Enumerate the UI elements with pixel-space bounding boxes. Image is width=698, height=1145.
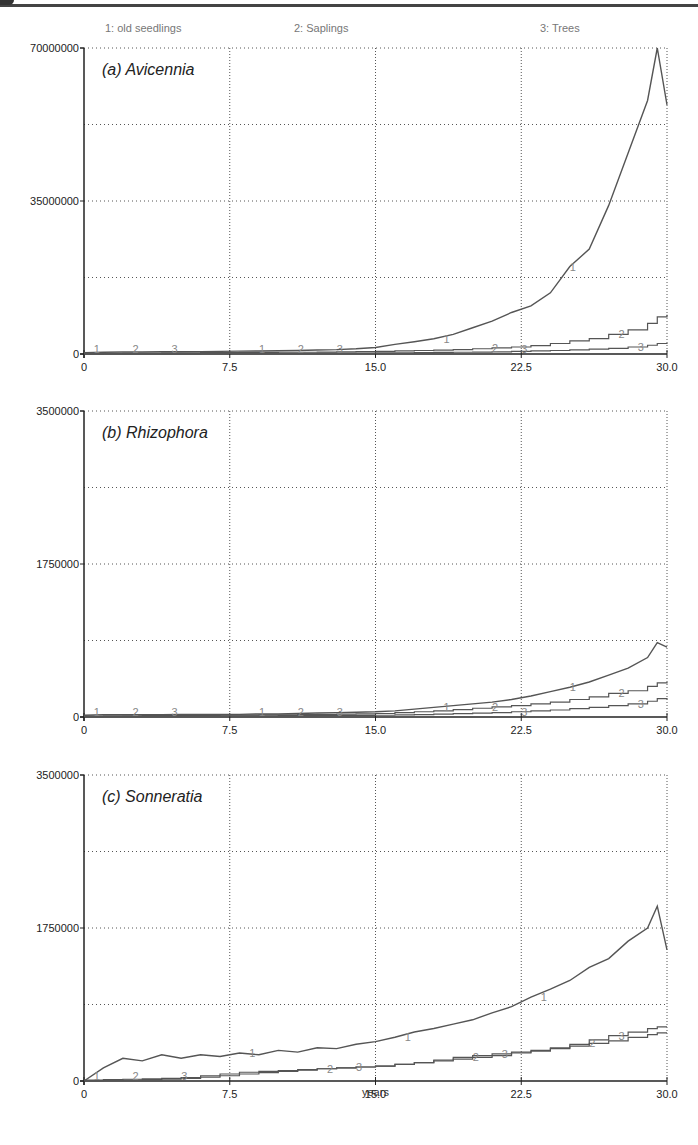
series-label: 1 bbox=[444, 333, 450, 345]
series-label: 3 bbox=[181, 1070, 187, 1082]
y-tick-label: 3500000 bbox=[36, 769, 79, 781]
x-tick-label: 30.0 bbox=[656, 1088, 677, 1100]
series-label: 1 bbox=[259, 343, 265, 355]
series-label: 1 bbox=[405, 1031, 411, 1043]
series-label: 2 bbox=[298, 706, 304, 718]
y-tick-label: 70000000 bbox=[30, 42, 79, 54]
y-tick-label: 0 bbox=[73, 711, 79, 723]
series-label: 2 bbox=[618, 328, 624, 340]
series-label: 3 bbox=[638, 341, 644, 353]
chart-avicennia: 07.515.022.530.003500000070000000(a) Avi… bbox=[0, 0, 698, 370]
series-label: 3 bbox=[356, 1061, 362, 1073]
series-label: 2 bbox=[618, 687, 624, 699]
chart-title: (b) Rhizophora bbox=[102, 424, 208, 441]
series-label: 3 bbox=[171, 343, 177, 355]
chart-rhizophora: 07.515.022.530.0017500003500000(b) Rhizo… bbox=[0, 363, 698, 733]
series-label: 2 bbox=[492, 342, 498, 354]
chart-sonneratia: 07.515.022.530.0017500003500000(c) Sonne… bbox=[0, 727, 698, 1097]
series-label: 3 bbox=[337, 343, 343, 355]
y-tick-label: 1750000 bbox=[36, 558, 79, 570]
series-label: 1 bbox=[249, 1047, 255, 1059]
series-label: 1 bbox=[444, 701, 450, 713]
series-label: 1 bbox=[570, 681, 576, 693]
series-label: 3 bbox=[521, 343, 527, 355]
series-label: 1 bbox=[541, 991, 547, 1003]
series-label: 1 bbox=[259, 706, 265, 718]
series-label: 2 bbox=[133, 343, 139, 355]
series-label: 3 bbox=[502, 1048, 508, 1060]
chart-title: (c) Sonneratia bbox=[102, 788, 203, 805]
series-label: 3 bbox=[618, 1030, 624, 1042]
series-label: 3 bbox=[521, 706, 527, 718]
series-label: 1 bbox=[94, 1070, 100, 1082]
series-label: 2 bbox=[133, 1070, 139, 1082]
series-label: 2 bbox=[327, 1063, 333, 1075]
series-label: 3 bbox=[638, 698, 644, 710]
chart-title: (a) Avicennia bbox=[102, 61, 195, 78]
y-tick-label: 0 bbox=[73, 1075, 79, 1087]
series-label: 3 bbox=[171, 706, 177, 718]
x-tick-label: 0 bbox=[81, 1088, 87, 1100]
y-tick-label: 1750000 bbox=[36, 922, 79, 934]
series-label: 2 bbox=[298, 343, 304, 355]
y-tick-label: 0 bbox=[73, 348, 79, 360]
x-tick-label: 22.5 bbox=[511, 1088, 532, 1100]
x-tick-label: 7.5 bbox=[222, 1088, 237, 1100]
series-label: 3 bbox=[337, 706, 343, 718]
series-label: 2 bbox=[133, 706, 139, 718]
y-tick-label: 3500000 bbox=[36, 405, 79, 417]
series-label: 2 bbox=[589, 1037, 595, 1049]
series-label: 2 bbox=[492, 701, 498, 713]
series-label: 1 bbox=[94, 706, 100, 718]
series-label: 2 bbox=[473, 1051, 479, 1063]
y-tick-label: 35000000 bbox=[30, 195, 79, 207]
series-label: 1 bbox=[570, 261, 576, 273]
series-label: 1 bbox=[94, 343, 100, 355]
x-axis-label: years bbox=[362, 1086, 389, 1098]
